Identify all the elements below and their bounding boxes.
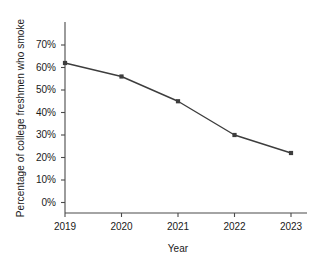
y-axis-ticks [61,45,65,203]
data-point-marker [232,133,236,137]
plot-area [0,0,325,270]
line-chart: Percentage of college freshmen who smoke… [0,0,325,270]
data-point-marker [119,74,123,78]
data-point-marker [289,151,293,155]
axis-lines [65,22,307,213]
data-markers [63,61,293,155]
x-axis-ticks [65,213,291,217]
data-line [65,63,291,153]
data-point-marker [63,61,67,65]
data-point-marker [176,99,180,103]
